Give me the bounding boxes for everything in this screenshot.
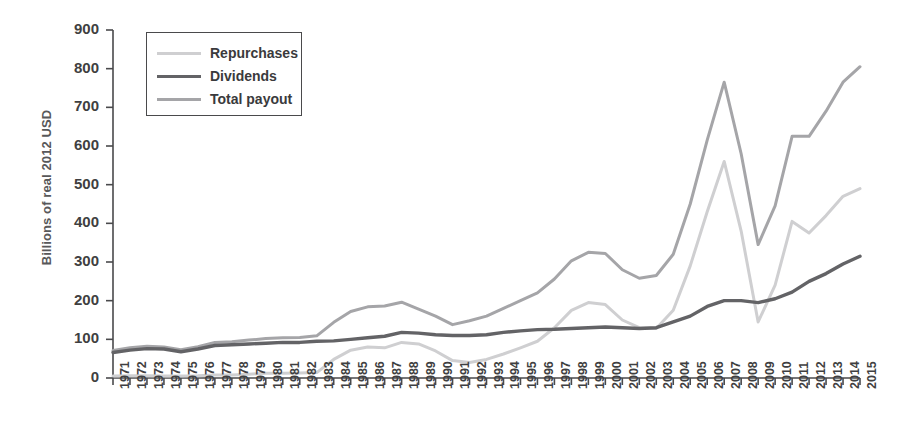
y-tick-label: 300 [53, 252, 99, 269]
x-tick-label: 1984 [339, 361, 353, 389]
x-tick-label: 1986 [373, 361, 387, 389]
legend-swatch-icon [157, 98, 201, 101]
legend-swatch-icon [157, 75, 201, 78]
y-tick-label: 400 [53, 213, 99, 230]
x-tick-label: 1987 [390, 361, 404, 389]
y-tick-label: 600 [53, 136, 99, 153]
x-tick-label: 2014 [848, 361, 862, 389]
y-tick-label: 800 [53, 59, 99, 76]
x-tick-label: 1972 [135, 361, 149, 389]
legend-label: Dividends [210, 68, 277, 84]
x-tick-label: 2001 [627, 361, 641, 389]
x-tick-label: 2005 [695, 361, 709, 389]
x-tick-label: 1979 [254, 361, 268, 389]
x-tick-label: 1993 [492, 361, 506, 389]
x-tick-label: 1980 [271, 361, 285, 389]
payout-chart-figure: Billions of real 2012 USD RepurchasesDiv… [0, 0, 907, 446]
x-tick-label: 2004 [678, 361, 692, 389]
x-tick-label: 1995 [525, 361, 539, 389]
x-tick-label: 2009 [763, 361, 777, 389]
x-tick-label: 1985 [356, 361, 370, 389]
x-tick-label: 1998 [576, 361, 590, 389]
y-tick-label: 900 [53, 20, 99, 37]
y-tick-label: 0 [53, 368, 99, 385]
legend-item-total-payout[interactable]: Total payout [157, 88, 292, 110]
x-tick-label: 1978 [237, 361, 251, 389]
y-tick-label: 500 [53, 175, 99, 192]
x-tick-label: 2008 [746, 361, 760, 389]
x-tick-label: 1991 [458, 361, 472, 389]
x-tick-label: 2013 [831, 361, 845, 389]
x-tick-label: 2003 [661, 361, 675, 389]
y-tick-label: 100 [53, 329, 99, 346]
legend-item-repurchases[interactable]: Repurchases [157, 42, 298, 64]
x-tick-label: 2006 [712, 361, 726, 389]
x-tick-label: 1982 [305, 361, 319, 389]
x-tick-label: 1983 [322, 361, 336, 389]
x-tick-label: 2012 [814, 361, 828, 389]
y-tick-label: 700 [53, 97, 99, 114]
legend-label: Repurchases [210, 45, 298, 61]
x-tick-label: 1974 [169, 361, 183, 389]
x-tick-label: 2007 [729, 361, 743, 389]
x-tick-label: 1981 [288, 361, 302, 389]
x-tick-label: 1997 [559, 361, 573, 389]
x-tick-label: 2000 [610, 361, 624, 389]
legend-label: Total payout [210, 91, 292, 107]
x-tick-label: 1977 [220, 361, 234, 389]
x-tick-label: 2002 [644, 361, 658, 389]
x-tick-label: 1975 [186, 361, 200, 389]
chart-legend: RepurchasesDividendsTotal payout [146, 32, 302, 116]
y-tick-label: 200 [53, 291, 99, 308]
x-tick-label: 1996 [542, 361, 556, 389]
x-tick-label: 1999 [593, 361, 607, 389]
x-tick-label: 1976 [203, 361, 217, 389]
x-tick-label: 2011 [797, 362, 811, 389]
legend-item-dividends[interactable]: Dividends [157, 65, 277, 87]
x-tick-label: 1988 [407, 361, 421, 389]
x-tick-label: 1994 [508, 361, 522, 389]
legend-swatch-icon [157, 52, 201, 55]
x-tick-label: 2015 [865, 361, 879, 389]
x-tick-label: 1989 [424, 361, 438, 389]
x-tick-label: 1971 [118, 361, 132, 389]
x-tick-label: 2010 [780, 361, 794, 389]
x-tick-label: 1990 [441, 361, 455, 389]
x-tick-label: 1992 [475, 361, 489, 389]
x-tick-label: 1973 [152, 361, 166, 389]
